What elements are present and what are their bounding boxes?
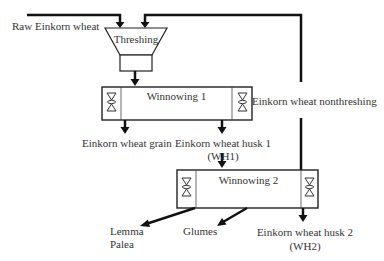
lemma-label: Lemma (110, 225, 144, 238)
husk1-output-label: Einkorn wheat husk 1 (172, 137, 274, 150)
glumes-output-arrow (217, 208, 247, 226)
nonthreshing-label: Einkorn wheat nonthreshing (252, 95, 377, 108)
glumes-label: Glumes (183, 225, 217, 238)
threshing-to-winnowing1-arrow (131, 71, 140, 86)
husk1-output-arrow (218, 120, 227, 134)
husk1-code-label: (WH1) (172, 150, 274, 163)
flow-diagram-graphics (0, 0, 384, 261)
husk2-code-label: (WH2) (254, 240, 356, 253)
husk2-output-label: Einkorn wheat husk 2 (254, 226, 356, 239)
palea-label: Palea (110, 238, 134, 251)
nonthreshing-recycle-line (141, 15, 302, 82)
winnowing1-label: Winnowing 1 (121, 90, 232, 103)
threshing-label: Threshing (110, 33, 162, 46)
raw-wheat-label: Raw Einkorn wheat (12, 20, 99, 33)
winnowing2-label: Winnowing 2 (196, 174, 301, 187)
grain-output-label: Einkorn wheat grain (82, 137, 172, 150)
grain-output-arrow (121, 120, 130, 134)
husk2-output-arrow (299, 208, 308, 222)
